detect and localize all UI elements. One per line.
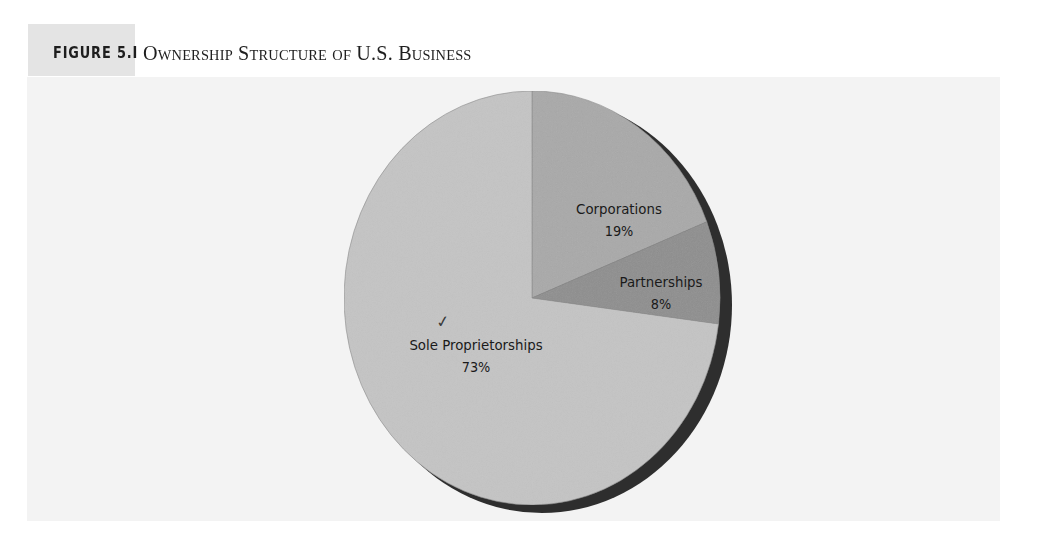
sole-proprietorships-value: 73% — [409, 356, 542, 378]
partnerships-value: 8% — [619, 293, 702, 315]
pie-chart — [0, 0, 1058, 549]
slice-label-sole-proprietorships: Sole Proprietorships 73% — [409, 334, 542, 378]
slice-label-corporations: Corporations 19% — [576, 198, 662, 242]
sole-proprietorships-label: Sole Proprietorships — [409, 337, 542, 353]
check-mark-icon: ✓ — [435, 311, 451, 332]
partnerships-label: Partnerships — [619, 274, 702, 290]
corporations-value: 19% — [576, 220, 662, 242]
slice-label-partnerships: Partnerships 8% — [619, 271, 702, 315]
corporations-label: Corporations — [576, 201, 662, 217]
